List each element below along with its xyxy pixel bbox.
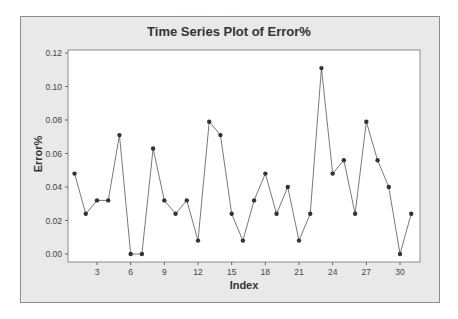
data-point	[173, 212, 177, 216]
data-point	[308, 212, 312, 216]
data-point	[128, 252, 132, 256]
x-axis-label: Index	[230, 279, 260, 291]
x-tick-label: 15	[227, 267, 237, 277]
data-point	[252, 198, 256, 202]
chart-plot: 0.000.020.040.060.080.100.12369121518212…	[0, 0, 458, 319]
data-point	[151, 146, 155, 150]
data-point	[162, 198, 166, 202]
y-axis-label: Error%	[32, 135, 44, 172]
data-point	[84, 212, 88, 216]
y-tick-label: 0.04	[45, 182, 62, 192]
x-tick-label: 18	[261, 267, 271, 277]
data-point	[274, 212, 278, 216]
data-point	[342, 158, 346, 162]
data-point	[185, 198, 189, 202]
data-point	[297, 238, 301, 242]
x-tick-label: 24	[328, 267, 338, 277]
data-point	[229, 212, 233, 216]
data-point	[117, 133, 121, 137]
y-tick-label: 0.06	[45, 149, 62, 159]
data-point	[72, 171, 76, 175]
x-tick-label: 27	[362, 267, 372, 277]
data-point	[241, 238, 245, 242]
data-point	[409, 212, 413, 216]
x-tick-label: 9	[162, 267, 167, 277]
data-point	[398, 252, 402, 256]
data-point	[286, 185, 290, 189]
y-tick-label: 0.02	[45, 216, 62, 226]
data-point	[353, 212, 357, 216]
data-point	[106, 198, 110, 202]
data-point	[207, 119, 211, 123]
x-tick-label: 21	[294, 267, 304, 277]
y-tick-label: 0.12	[45, 48, 62, 58]
y-tick-label: 0.08	[45, 115, 62, 125]
y-tick-label: 0.10	[45, 82, 62, 92]
data-point	[196, 238, 200, 242]
x-tick-label: 3	[95, 267, 100, 277]
data-point	[364, 119, 368, 123]
data-point	[263, 171, 267, 175]
data-point	[95, 198, 99, 202]
x-tick-label: 30	[395, 267, 405, 277]
plot-area	[68, 50, 420, 262]
data-point	[375, 158, 379, 162]
data-point	[140, 252, 144, 256]
data-point	[330, 171, 334, 175]
data-point	[319, 66, 323, 70]
data-point	[387, 185, 391, 189]
y-tick-label: 0.00	[45, 249, 62, 259]
x-tick-label: 12	[193, 267, 203, 277]
x-tick-label: 6	[128, 267, 133, 277]
data-point	[218, 133, 222, 137]
